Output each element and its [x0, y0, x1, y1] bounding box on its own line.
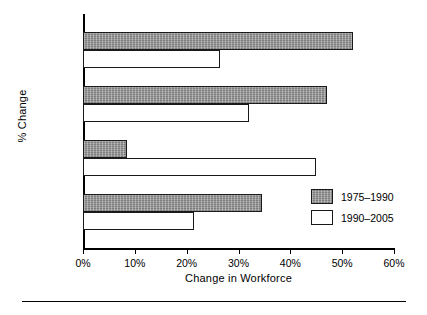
legend-swatch-1975-1990 [311, 189, 333, 204]
x-tick-mark-10 [135, 248, 136, 254]
x-tick-label-60: 60% [372, 257, 416, 269]
chart-legend: 1975–1990 1990–2005 [311, 186, 394, 228]
x-tick-mark-40 [290, 248, 291, 254]
legend-item-period1: 1975–1990 [311, 186, 394, 207]
bar-group-women: Women [83, 32, 394, 68]
legend-item-period2: 1990–2005 [311, 207, 394, 228]
bar-age-55-series2 [83, 158, 316, 176]
bar-chart-figure: % Change WomenBlacksAge 55+Total0%10%20%… [0, 0, 427, 315]
x-tick-label-40: 40% [268, 257, 312, 269]
x-tick-mark-50 [342, 248, 343, 254]
y-axis-title: % Change [16, 66, 28, 166]
bar-age-55-series1 [83, 140, 127, 158]
bar-blacks-series1 [83, 86, 327, 104]
x-tick-mark-30 [239, 248, 240, 254]
bar-total-series2 [83, 212, 194, 230]
bar-women-series2 [83, 50, 220, 68]
legend-label-1990-2005: 1990–2005 [341, 212, 394, 224]
x-tick-mark-0 [83, 248, 84, 254]
footer-rule [22, 301, 406, 302]
bar-group-blacks: Blacks [83, 86, 394, 122]
x-tick-label-50: 50% [320, 257, 364, 269]
x-tick-label-10: 10% [113, 257, 157, 269]
bar-group-age-55: Age 55+ [83, 140, 394, 176]
bar-total-series1 [83, 194, 262, 212]
x-tick-mark-20 [187, 248, 188, 254]
x-tick-label-0: 0% [61, 257, 105, 269]
x-tick-label-20: 20% [165, 257, 209, 269]
legend-swatch-1990-2005 [311, 210, 333, 225]
bar-women-series1 [83, 32, 353, 50]
bar-blacks-series2 [83, 104, 249, 122]
x-tick-label-30: 30% [217, 257, 261, 269]
legend-label-1975-1990: 1975–1990 [341, 191, 394, 203]
x-axis-title: Change in Workforce [83, 272, 394, 284]
x-tick-mark-60 [394, 248, 395, 254]
